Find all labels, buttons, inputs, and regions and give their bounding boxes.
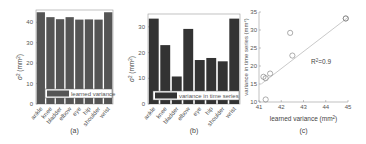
svg-text:R2=0.9: R2=0.9 — [311, 58, 331, 66]
panel-caption: (a) — [70, 127, 79, 135]
y-axis-label: σ2 (mm2) — [128, 56, 137, 82]
y-tick-label: 35 — [250, 9, 257, 15]
scatter-plot-correlation: 1015202530354142434445R2=0.9learned vari… — [244, 0, 366, 144]
y-tick-label: 0 — [142, 101, 146, 107]
svg-text:variance in time series (mm2): variance in time series (mm2) — [244, 18, 249, 96]
data-point — [268, 71, 273, 76]
svg-text:variance in time series: variance in time series — [179, 93, 239, 99]
panel-b: 0102030anklekneebladderelboweyehipshould… — [122, 0, 244, 144]
legend: variance in time series — [153, 91, 239, 100]
x-axis-label: learned variance (mm2) — [270, 115, 338, 124]
svg-text:learned variance (mm2): learned variance (mm2) — [270, 115, 338, 124]
x-tick-label: 43 — [300, 104, 307, 110]
y-tick-label: 20 — [250, 63, 257, 69]
x-tick-label: eye — [71, 105, 82, 117]
svg-text:σ2 (mm2): σ2 (mm2) — [128, 56, 137, 82]
y-tick-label: 20 — [26, 60, 33, 66]
y-tick-label: 30 — [138, 24, 145, 30]
y-tick-label: 30 — [26, 40, 33, 46]
bar-chart-time-series-variance: 0102030anklekneebladderelboweyehipshould… — [122, 0, 244, 144]
y-axis-label: σ2 (mm2) — [16, 54, 25, 80]
x-tick-label: eye — [192, 105, 203, 117]
x-tick-label: ankle — [143, 105, 157, 120]
fit-line — [261, 17, 348, 84]
y-tick-label: 10 — [138, 75, 145, 81]
y-tick-label: 30 — [250, 27, 257, 33]
x-tick-label: 44 — [322, 104, 329, 110]
r-squared-annotation: R2=0.9 — [311, 58, 331, 66]
data-point — [288, 30, 293, 35]
y-tick-label: 25 — [250, 45, 257, 51]
panel-caption: (c) — [299, 127, 307, 135]
data-point — [263, 97, 268, 102]
x-tick-label: wrist — [224, 106, 237, 120]
bar-chart-learned-variance: 010203040anklekneebladderelboweyehipshou… — [0, 0, 122, 144]
x-tick-label: 42 — [278, 104, 285, 110]
svg-text:σ2 (mm2): σ2 (mm2) — [16, 54, 25, 80]
panel-a: 010203040anklekneebladderelboweyehipshou… — [0, 0, 122, 144]
bar-ankle — [37, 12, 45, 104]
x-tick-label: elbow — [176, 105, 191, 121]
x-tick-label: 45 — [345, 104, 352, 110]
legend: learned variance — [45, 89, 116, 98]
y-tick-label: 40 — [26, 19, 33, 25]
y-tick-label: 10 — [26, 81, 33, 87]
svg-text:learned variance: learned variance — [71, 91, 116, 97]
data-point — [343, 16, 348, 21]
panel-caption: (b) — [190, 127, 199, 135]
data-point — [290, 53, 295, 58]
y-axis-label: variance in time series (mm2) — [244, 18, 249, 96]
y-tick-label: 20 — [138, 50, 145, 56]
y-tick-label: 0 — [30, 101, 34, 107]
x-tick-label: wrist — [98, 106, 111, 120]
y-tick-label: 15 — [250, 81, 257, 87]
x-tick-label: 41 — [256, 104, 263, 110]
panel-c: 1015202530354142434445R2=0.9learned vari… — [244, 0, 366, 144]
